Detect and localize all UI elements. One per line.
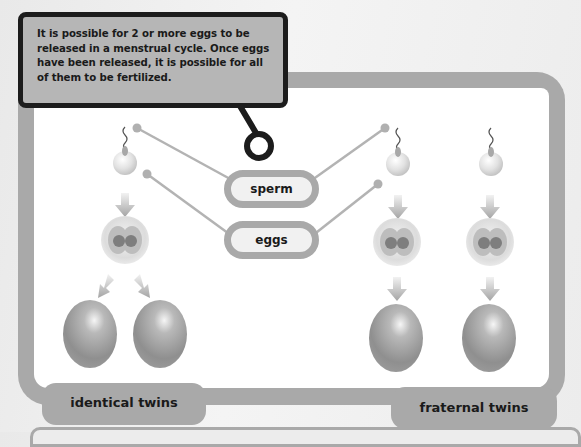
fraternal-twin-1-column: [369, 128, 423, 372]
callout-text: It is possible for 2 or more eggs to be …: [37, 27, 271, 85]
info-callout: It is possible for 2 or more eggs to be …: [18, 12, 288, 108]
identical-twins-label: identical twins: [42, 383, 206, 425]
arrow-down-left-icon: [98, 274, 114, 298]
identical-twins-column: [63, 127, 187, 368]
sperm-icon: [488, 128, 494, 157]
fraternal-twins-label: fraternal twins: [391, 387, 557, 429]
sperm-icon: [122, 127, 128, 156]
arrow-down-right-icon: [134, 274, 150, 298]
embryo-egg-icon: [462, 304, 516, 372]
arrow-down-icon: [480, 277, 500, 301]
fraternal-twin-2-column: [462, 128, 516, 372]
arrow-down-icon: [388, 195, 408, 219]
arrow-down-icon: [115, 193, 135, 217]
eggs-label: eggs: [224, 221, 319, 259]
sperm-label: sperm: [224, 170, 319, 208]
arrow-down-icon: [480, 195, 500, 219]
callout-tail-icon: [240, 106, 271, 158]
two-cell-embryo-icon: [466, 218, 514, 266]
two-cell-embryo-icon: [373, 218, 421, 266]
embryo-egg-icon: [133, 300, 187, 368]
bottom-panel: [30, 427, 581, 447]
sperm-icon: [395, 128, 401, 157]
embryo-egg-icon: [369, 304, 423, 372]
two-cell-embryo-icon: [101, 216, 149, 264]
arrow-down-icon: [387, 277, 407, 301]
embryo-egg-icon: [63, 300, 117, 368]
